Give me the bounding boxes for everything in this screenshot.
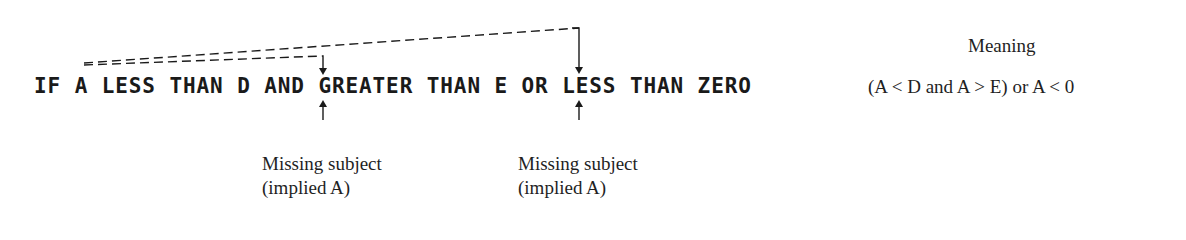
annotation-line-2: (implied A) [518, 176, 638, 200]
meaning-heading: Meaning [968, 35, 1036, 57]
annotation-line-1: Missing subject [262, 152, 382, 176]
annotation-missing-subject-and: Missing subject (implied A) [262, 152, 382, 200]
annotation-missing-subject-or: Missing subject (implied A) [518, 152, 638, 200]
annotation-line-2: (implied A) [262, 176, 382, 200]
meaning-expression: (A < D and A > E) or A < 0 [868, 76, 1074, 98]
compound-condition-statement: IF A LESS THAN D AND GREATER THAN E OR L… [34, 74, 752, 98]
arrowhead-down-or [575, 67, 583, 74]
arrowhead-up-and [319, 100, 327, 107]
arrowhead-up-or [575, 100, 583, 107]
dashed-link-to-or [84, 28, 579, 63]
down-arrow-or [572, 28, 579, 70]
annotation-line-1: Missing subject [518, 152, 638, 176]
